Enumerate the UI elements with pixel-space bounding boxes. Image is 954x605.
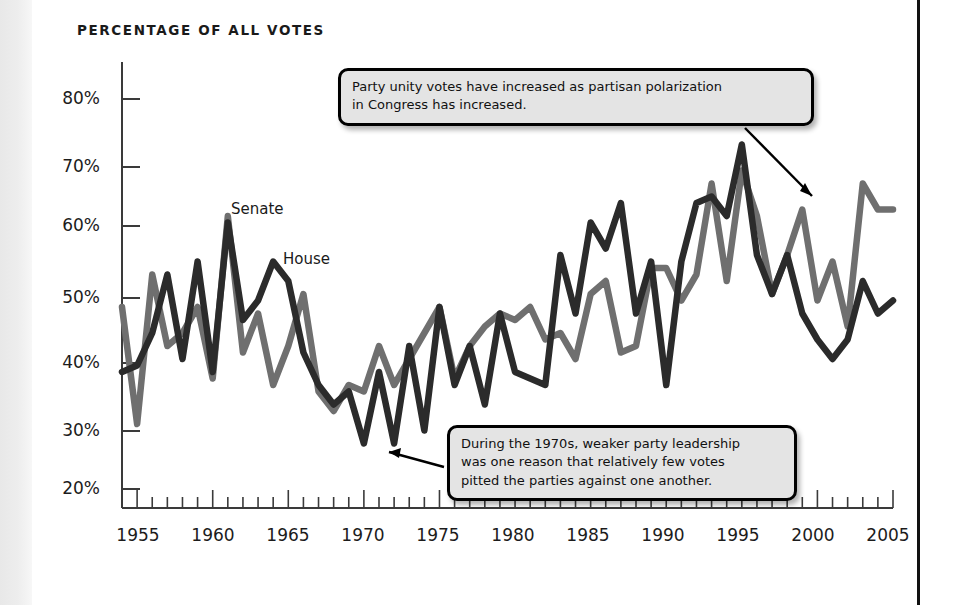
callout-bottom-line-3: pitted the parties against one another.: [461, 472, 783, 490]
callout-bottom-line-1: During the 1970s, weaker party leadershi…: [461, 435, 783, 453]
y-axis-ticks: [122, 99, 140, 489]
series-line-house: [122, 145, 893, 444]
callout-bottom-line-2: was one reason that relatively few votes: [461, 453, 783, 471]
chart-page: PERCENTAGE OF ALL VOTES 80% 70% 60% 50% …: [0, 0, 954, 605]
callout-party-unity-increase: Party unity votes have increased as part…: [338, 68, 814, 126]
callout-top-arrow: [745, 128, 812, 196]
callout-top-line-2: in Congress has increased.: [352, 96, 800, 114]
callout-top-line-1: Party unity votes have increased as part…: [352, 78, 800, 96]
callout-1970s-weaker-leadership: During the 1970s, weaker party leadershi…: [447, 425, 797, 501]
callout-bottom-arrow: [389, 448, 444, 467]
